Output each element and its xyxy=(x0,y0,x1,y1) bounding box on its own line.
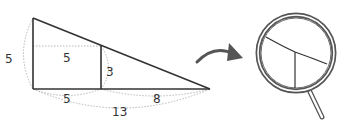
label-bottom-total: 13 xyxy=(112,105,127,119)
triangle-hypotenuse xyxy=(33,18,210,89)
left-height-arc xyxy=(24,18,34,89)
triangle xyxy=(33,18,210,89)
label-left-height: 5 xyxy=(5,52,13,66)
curved-arrow-icon xyxy=(197,43,243,62)
dimension-arcs xyxy=(24,18,211,108)
label-bottom-left: 5 xyxy=(63,92,71,106)
label-inner-height: 3 xyxy=(106,65,114,79)
diagram-svg: 5 5 3 5 8 13 xyxy=(0,0,354,134)
magnifying-glass-icon xyxy=(258,15,334,117)
label-bottom-right: 8 xyxy=(153,92,161,106)
label-inner-width: 5 xyxy=(63,51,71,65)
diagram-canvas: 5 5 3 5 8 13 xyxy=(0,0,354,134)
